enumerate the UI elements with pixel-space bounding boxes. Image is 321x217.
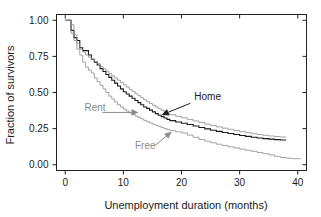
y-tick-label: 0.75 <box>29 51 49 62</box>
x-tick-label: 10 <box>118 177 130 188</box>
x-tick-label: 40 <box>292 177 304 188</box>
annotation-label-free: Free <box>135 140 156 151</box>
y-tick-label: 0.25 <box>29 123 49 134</box>
y-axis-title: Fraction of survivors <box>4 45 16 145</box>
survival-curve-chart: HomeRentFree 010203040 0.000.250.500.751… <box>0 0 321 217</box>
annotation-label-rent: Rent <box>84 102 105 113</box>
annotation-label-home: Home <box>194 91 221 102</box>
y-tick-label: 0.00 <box>29 159 49 170</box>
x-tick-label: 0 <box>62 177 68 188</box>
x-tick-label: 20 <box>176 177 188 188</box>
chart-canvas: HomeRentFree 010203040 0.000.250.500.751… <box>0 0 321 217</box>
y-tick-label: 1.00 <box>29 15 49 26</box>
y-tick-label: 0.50 <box>29 87 49 98</box>
x-axis-title: Unemployment duration (months) <box>104 199 267 211</box>
x-tick-label: 30 <box>234 177 246 188</box>
